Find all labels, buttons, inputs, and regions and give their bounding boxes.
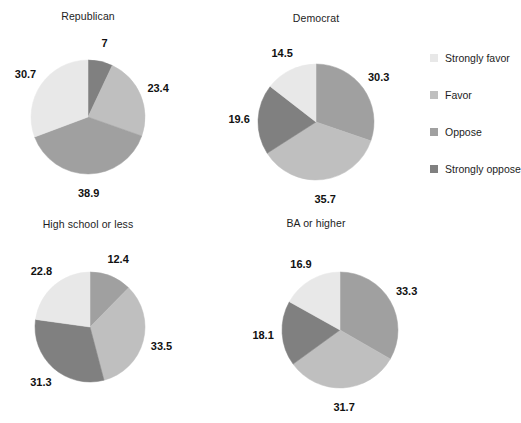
legend-label: Strongly oppose: [445, 163, 521, 175]
pie-slice-label: 16.9: [290, 258, 311, 270]
pie-slice-label: 19.6: [228, 113, 249, 125]
legend-label: Oppose: [445, 126, 482, 138]
legend-item: Strongly oppose: [430, 163, 521, 175]
pie-slice-label: 38.9: [78, 187, 99, 199]
pie-slice-label: 14.5: [271, 47, 292, 59]
legend-swatch-icon: [430, 165, 438, 173]
pie-republican: 723.438.930.7: [0, 0, 176, 210]
pie-panel-democrat: Democrat 30.335.719.614.5: [228, 0, 404, 210]
pie-panel-republican: Republican 723.438.930.7: [0, 0, 176, 210]
pie-high-school-or-less: 12.433.531.322.8: [0, 210, 176, 423]
pie-slice-label: 33.5: [151, 340, 172, 352]
pie-chart-figure: Republican 723.438.930.7 Democrat 30.335…: [0, 0, 521, 423]
pie-democrat: 30.335.719.614.5: [228, 0, 404, 210]
legend-item: Strongly favor: [430, 52, 521, 64]
pie-slice-label: 35.7: [314, 193, 335, 205]
legend-label: Favor: [445, 89, 472, 101]
legend-label: Strongly favor: [445, 52, 510, 64]
legend-swatch-icon: [430, 128, 438, 136]
legend-swatch-icon: [430, 91, 438, 99]
pie-slice-label: 12.4: [107, 253, 129, 265]
pie-panel-ba-or-higher: BA or higher 33.331.718.116.9: [228, 210, 404, 423]
legend-item: Favor: [430, 89, 521, 101]
legend-item: Oppose: [430, 126, 521, 138]
pie-slice-label: 23.4: [147, 82, 169, 94]
pie-slice-label: 22.8: [31, 265, 52, 277]
pie-slice-label: 18.1: [252, 329, 273, 341]
pie-slice-label: 31.3: [30, 376, 51, 388]
pie-slice-label: 33.3: [396, 285, 417, 297]
chart-legend: Strongly favor Favor Oppose Strongly opp…: [430, 52, 521, 200]
pie-panel-high-school-or-less: High school or less 12.433.531.322.8: [0, 210, 176, 423]
pie-slice-label: 7: [102, 37, 108, 49]
pie-slice-label: 31.7: [333, 401, 354, 413]
legend-swatch-icon: [430, 54, 438, 62]
pie-slice-label: 30.3: [368, 71, 389, 83]
pie-ba-or-higher: 33.331.718.116.9: [228, 210, 404, 423]
pie-slice: [36, 272, 90, 327]
pie-slice-label: 30.7: [15, 68, 36, 80]
